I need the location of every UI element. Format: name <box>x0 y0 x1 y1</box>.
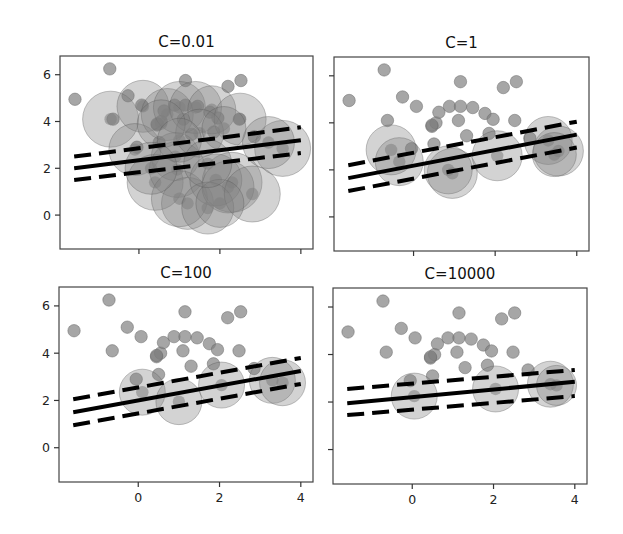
data-point <box>509 114 521 126</box>
panel-c-0-01: C=0.01 0246 <box>43 33 313 254</box>
data-point <box>235 74 247 86</box>
data-point <box>121 321 133 333</box>
data-point <box>465 333 477 345</box>
data-point <box>396 91 408 103</box>
data-point <box>233 345 245 357</box>
data-point <box>106 345 118 357</box>
data-point <box>380 346 392 358</box>
panel-title: C=1 <box>445 34 478 52</box>
y-tick-label: 6 <box>43 67 51 82</box>
data-point <box>410 100 422 112</box>
support-vector-point <box>246 188 258 200</box>
plot-area <box>68 294 306 425</box>
data-point <box>454 100 466 112</box>
y-tick-label: 2 <box>42 393 50 408</box>
data-point <box>150 349 162 361</box>
data-point <box>453 332 465 344</box>
support-vector-point <box>104 113 116 125</box>
data-point <box>395 322 407 334</box>
data-point <box>221 312 233 324</box>
support-vector-point <box>218 122 230 134</box>
data-point <box>507 346 519 358</box>
data-point <box>378 64 390 76</box>
x-tick-label: 4 <box>297 490 305 505</box>
panel-c-10000: C=10000 024 <box>328 265 587 507</box>
data-point <box>177 345 189 357</box>
y-tick-label: 4 <box>42 346 50 361</box>
panel-title: C=0.01 <box>158 33 214 51</box>
data-point <box>191 332 203 344</box>
x-tick-label: 2 <box>490 492 498 507</box>
y-tick-label: 0 <box>43 208 51 223</box>
plot-area <box>342 295 577 419</box>
x-tick-label: 0 <box>408 492 416 507</box>
panel-title: C=10000 <box>425 265 496 283</box>
data-point <box>103 294 115 306</box>
y-tick-label: 0 <box>42 440 50 455</box>
data-point <box>453 307 465 319</box>
data-point <box>234 306 246 318</box>
data-point <box>467 101 479 113</box>
y-tick-label: 6 <box>42 298 50 313</box>
data-point <box>485 345 497 357</box>
plot-area <box>69 63 311 234</box>
data-point <box>508 307 520 319</box>
data-point <box>377 295 389 307</box>
panel-c-100: C=100 0240246 <box>42 264 313 505</box>
data-point <box>68 325 80 337</box>
data-point <box>185 360 197 372</box>
data-point <box>211 343 223 355</box>
y-tick-label: 4 <box>43 114 51 129</box>
data-point <box>510 75 522 87</box>
data-point <box>179 330 191 342</box>
x-tick-label: 4 <box>571 492 579 507</box>
data-point <box>69 93 81 105</box>
data-point <box>424 351 436 363</box>
x-tick-label: 0 <box>134 490 142 505</box>
data-point <box>452 114 464 126</box>
data-point <box>426 119 438 131</box>
data-point <box>409 332 421 344</box>
data-point <box>343 94 355 106</box>
plot-area <box>343 64 584 199</box>
data-point <box>459 361 471 373</box>
support-vector-point <box>214 197 226 209</box>
data-point <box>454 75 466 87</box>
data-point <box>104 63 116 75</box>
data-point <box>179 306 191 318</box>
data-point <box>495 313 507 325</box>
data-point <box>497 81 509 93</box>
data-point <box>135 330 147 342</box>
panel-title: C=100 <box>160 264 212 282</box>
panel-c-1: C=1 <box>329 34 589 256</box>
svm-figure: C=0.01 0246 C=1 C=100 0240246 C=10000 02… <box>0 0 623 534</box>
y-tick-label: 2 <box>43 161 51 176</box>
x-tick-label: 2 <box>216 490 224 505</box>
data-point <box>487 113 499 125</box>
data-point <box>342 326 354 338</box>
data-point <box>451 346 463 358</box>
